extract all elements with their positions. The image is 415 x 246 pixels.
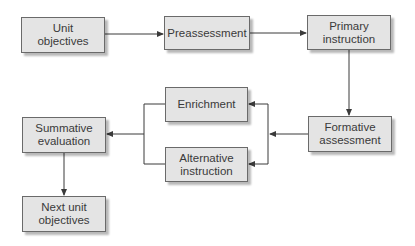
node-alternative-instruction: Alternative instruction xyxy=(165,147,248,182)
node-label: Formative assessment xyxy=(319,121,380,147)
node-label: Primary instruction xyxy=(323,20,375,46)
node-preassessment: Preassessment xyxy=(164,16,250,50)
node-label: Enrichment xyxy=(177,98,235,111)
node-enrichment: Enrichment xyxy=(165,87,248,122)
node-label: Next unit objectives xyxy=(38,201,89,227)
node-unit-objectives: Unit objectives xyxy=(21,17,105,53)
node-summative-evaluation: Summative evaluation xyxy=(22,117,106,153)
node-label: Preassessment xyxy=(167,27,246,40)
node-primary-instruction: Primary instruction xyxy=(307,15,391,50)
node-label: Alternative instruction xyxy=(179,152,233,178)
flowchart-canvas: Unit objectives Preassessment Primary in… xyxy=(0,0,415,246)
node-formative-assessment: Formative assessment xyxy=(308,116,392,152)
node-next-unit-objectives: Next unit objectives xyxy=(22,196,106,232)
node-label: Unit objectives xyxy=(37,22,88,48)
node-label: Summative evaluation xyxy=(35,122,93,148)
